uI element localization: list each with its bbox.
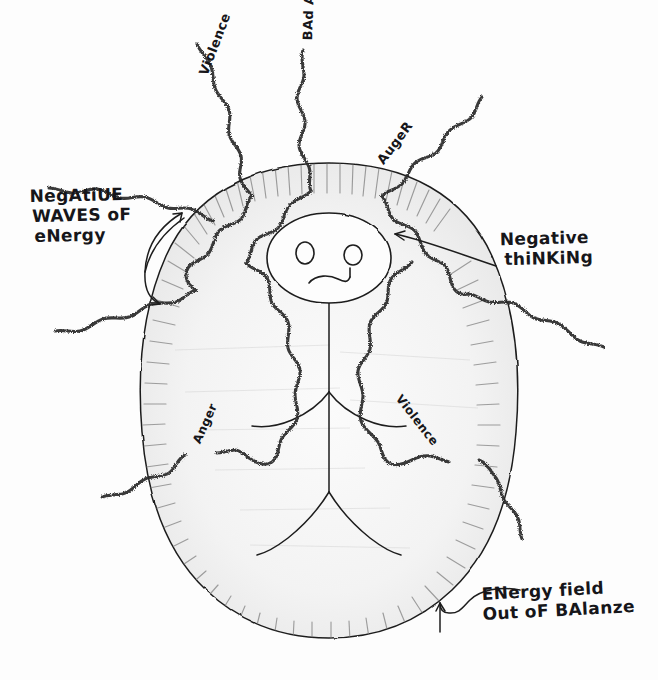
callout-negative-thinking: Negative thiNKiNg (499, 227, 593, 270)
sketch-canvas: NegAtiUE WAVES oF eNergy Negative thiNKi… (0, 0, 658, 680)
head-outline (267, 213, 391, 303)
callout-line-1: NegAtiUE (29, 184, 131, 206)
callout-negative-waves-of-energy: NegAtiUE WAVES oF eNergy (29, 184, 132, 246)
callout-line-2: thiNKiNg (500, 247, 593, 269)
callout-energy-field-out-of-balance: ENergy field Out oF BAlanze (481, 576, 635, 624)
diagram-drawing (0, 0, 658, 680)
callout-line-2: WAVES oF (30, 204, 132, 226)
figure-head (267, 213, 391, 303)
callout-line-3: eNergy (30, 224, 132, 246)
callout-line-1: Negative (499, 227, 592, 249)
